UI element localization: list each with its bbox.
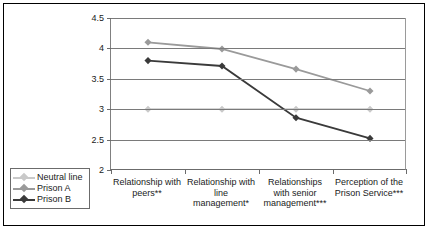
y-axis-tick xyxy=(107,18,111,19)
legend-swatch-icon xyxy=(13,183,35,194)
x-axis-category-label-3: Relationships with senior management*** xyxy=(258,177,332,209)
legend-marker-icon xyxy=(20,173,28,181)
y-axis-tick-label: 3.5 xyxy=(91,75,104,84)
y-axis-tick-label: 3 xyxy=(99,105,104,114)
legend-marker-icon xyxy=(20,184,28,192)
data-point-marker xyxy=(366,87,373,94)
y-axis-tick xyxy=(107,109,111,110)
legend-item-label: Prison B xyxy=(37,194,71,205)
data-point-marker xyxy=(144,57,151,64)
gridline xyxy=(111,140,405,141)
plot-area: 22.533.544.5 xyxy=(110,18,406,170)
gridline xyxy=(111,18,405,19)
chart-legend: Neutral linePrison APrison B xyxy=(10,168,90,209)
y-axis-tick xyxy=(107,48,111,49)
y-axis-tick xyxy=(107,140,111,141)
data-point-marker xyxy=(292,66,299,73)
x-axis-tick xyxy=(333,169,334,174)
x-axis-category-label-4: Perception of the Prison Service*** xyxy=(332,177,406,209)
x-axis-tick xyxy=(259,169,260,174)
chart-figure: 22.533.544.5 Relationship with peers**Re… xyxy=(0,0,429,230)
x-axis-labels: Relationship with peers**Relationship wi… xyxy=(110,177,406,209)
x-axis-tick xyxy=(185,169,186,174)
y-axis-tick-label: 4 xyxy=(99,44,104,53)
gridline xyxy=(111,109,405,110)
legend-swatch-icon xyxy=(13,194,35,205)
legend-item-prison-a[interactable]: Prison A xyxy=(13,183,86,194)
series-layer xyxy=(111,18,407,170)
legend-item-label: Prison A xyxy=(37,183,71,194)
legend-swatch-icon xyxy=(13,172,35,183)
legend-item-neutral-line[interactable]: Neutral line xyxy=(13,172,86,183)
y-axis-tick xyxy=(107,79,111,80)
x-axis-tick xyxy=(406,169,407,174)
x-axis-tick xyxy=(111,169,112,174)
data-point-marker xyxy=(218,45,225,52)
gridline xyxy=(111,48,405,49)
y-axis-tick-label: 2.5 xyxy=(91,136,104,145)
y-axis-tick-label: 2 xyxy=(99,166,104,175)
gridline xyxy=(111,79,405,80)
legend-item-label: Neutral line xyxy=(37,172,83,183)
series-prison-b xyxy=(144,57,373,142)
legend-marker-icon xyxy=(20,195,28,203)
x-axis-category-label-1: Relationship with peers** xyxy=(110,177,184,209)
y-axis-tick-label: 4.5 xyxy=(91,14,104,23)
data-point-marker xyxy=(144,39,151,46)
series-line xyxy=(148,61,370,139)
legend-item-prison-b[interactable]: Prison B xyxy=(13,194,86,205)
x-axis-category-label-2: Relationship with line management* xyxy=(184,177,258,209)
series-line xyxy=(148,42,370,91)
